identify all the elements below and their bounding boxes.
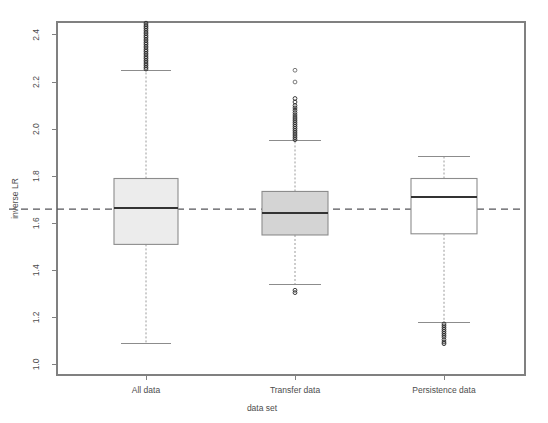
y-tick-label: 1.2 (31, 311, 41, 323)
box-group (114, 21, 178, 343)
x-axis-title: data set (247, 403, 278, 413)
boxplot-chart: 1.01.21.41.61.82.02.22.4inverse LRAll da… (0, 0, 548, 423)
outlier-point (293, 68, 297, 72)
plot-canvas: 1.01.21.41.61.82.02.22.4inverse LRAll da… (0, 0, 548, 423)
y-tick-label: 1.4 (31, 264, 41, 276)
outlier-point (293, 291, 297, 295)
outlier-point (293, 80, 297, 84)
y-tick-label: 1.0 (31, 358, 41, 370)
box-rect (114, 178, 178, 244)
y-axis-title: inverse LR (10, 178, 20, 219)
x-tick-label: Persistence data (412, 385, 476, 395)
x-tick-label: Transfer data (270, 385, 321, 395)
y-tick-label: 1.8 (31, 170, 41, 182)
box-rect (411, 178, 477, 233)
y-tick-label: 2.0 (31, 123, 41, 135)
y-tick-label: 1.6 (31, 217, 41, 229)
y-tick-label: 2.4 (31, 29, 41, 41)
x-tick-label: All data (132, 385, 161, 395)
box-group (411, 156, 477, 345)
box-group (262, 68, 328, 294)
y-tick-label: 2.2 (31, 76, 41, 88)
